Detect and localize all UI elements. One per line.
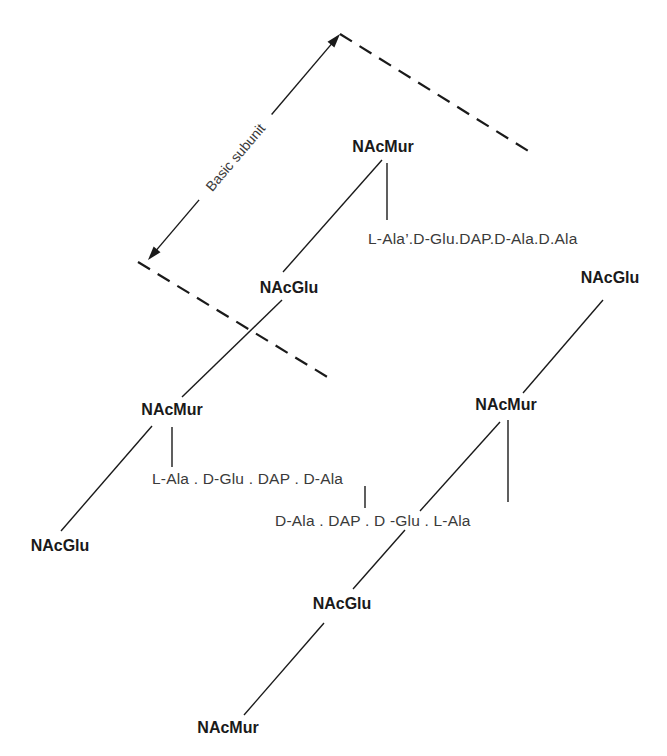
peptide-chain-left: L-Ala . D-Glu . DAP . D-Ala — [152, 470, 343, 487]
bond-left-murNAc-to-left-glcNAc — [61, 426, 152, 531]
sugar-nacmur-left: NAcMur — [141, 401, 202, 418]
basic-subunit-label: Basic subunit — [202, 120, 268, 194]
bond-right-murNAc-to-glcNAc-upper — [420, 422, 500, 511]
sugar-nacmur-right: NAcMur — [475, 396, 536, 413]
sugar-nacmur-bottom: NAcMur — [197, 719, 258, 736]
bond-bottom-glcNAc-to-bottom-murNAc — [244, 623, 324, 715]
peptide-chain-top: L-Ala’.D-Glu.DAP.D-Ala.D.Ala — [368, 230, 578, 247]
sugar-nacglu-left: NAcGlu — [31, 537, 90, 554]
peptide-chains: L-Ala’.D-Glu.DAP.D-Ala.D.Ala L-Ala . D-G… — [152, 230, 578, 529]
peptidoglycan-diagram: Basic subunit NAcMur NAcGlu NAcMur NAcGl… — [0, 0, 667, 756]
dimension-line-lower-segment — [154, 200, 199, 253]
subunit-boundaries — [138, 34, 530, 381]
sugar-nacmur-top: NAcMur — [352, 138, 413, 155]
sugar-nacglu-bottom: NAcGlu — [313, 595, 372, 612]
peptide-chain-right: D-Ala . DAP . D -Glu . L-Ala — [275, 512, 471, 529]
dimension-line-upper-segment — [272, 42, 334, 115]
bond-top-murNAc-to-center-glcNAc — [283, 160, 382, 272]
sugar-nacglu-right: NAcGlu — [581, 269, 640, 286]
bond-right-murNAc-to-glcNAc-lower — [353, 530, 405, 589]
basic-subunit-dimension: Basic subunit — [148, 34, 340, 260]
bond-center-glcNAc-to-left-murNAc — [182, 300, 282, 397]
sugar-nacglu-center: NAcGlu — [260, 279, 319, 296]
bond-right-glcNAc-to-right-murNAc — [523, 300, 603, 393]
sugar-labels: NAcMur NAcGlu NAcMur NAcGlu NAcGlu NAcMu… — [31, 138, 640, 736]
upper-boundary-dashed-line — [340, 34, 530, 152]
